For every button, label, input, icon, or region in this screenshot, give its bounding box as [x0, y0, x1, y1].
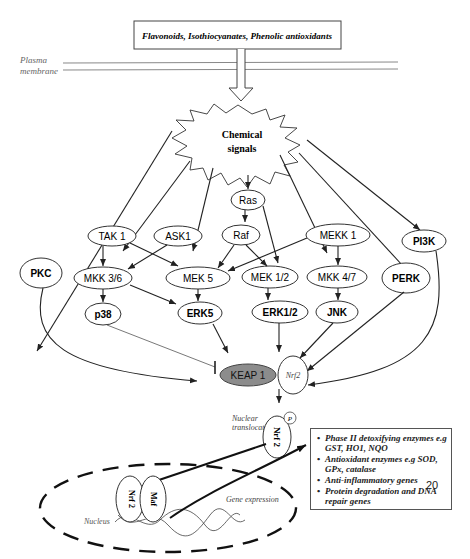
node-nrf2-cytoplasm: Nrf2 [278, 356, 308, 394]
chemical-signals-starburst: Chemical signals [172, 104, 300, 187]
nrf2-signaling-diagram: Flavonoids, Isothiocyanates, Phenolic an… [0, 0, 470, 559]
node-ask1: ASK1 [154, 226, 202, 246]
svg-text:MEK 5: MEK 5 [183, 273, 213, 284]
input-compounds-box: Flavonoids, Isothiocyanates, Phenolic an… [134, 21, 341, 49]
svg-text:Nrf 2: Nrf 2 [272, 427, 282, 448]
gene-expression-label: Gene expression [226, 495, 279, 504]
svg-text:MEKK 1: MEKK 1 [320, 230, 357, 241]
svg-text:MEK 1/2: MEK 1/2 [251, 272, 290, 283]
svg-text:PKC: PKC [30, 268, 51, 279]
svg-text:Nrf 2: Nrf 2 [127, 490, 136, 508]
svg-text:TAK 1: TAK 1 [98, 231, 125, 242]
node-mek12: MEK 1/2 [242, 266, 298, 288]
svg-text:JNK: JNK [327, 307, 348, 318]
svg-text:p38: p38 [94, 309, 112, 320]
svg-text:PERK: PERK [392, 273, 421, 284]
node-jnk: JNK [316, 301, 358, 323]
membrane-label-1: Plasma [19, 55, 48, 65]
svg-text:Raf: Raf [233, 230, 249, 241]
node-pi3k: PI3K [402, 230, 446, 252]
gene-item-phase2: Phase II detoxifying enzymes e.g GST, HO… [317, 433, 447, 453]
node-pkc: PKC [20, 258, 62, 288]
phosphate-badge: P [284, 412, 296, 424]
node-p38: p38 [85, 303, 121, 325]
plasma-membrane: Plasma membrane [19, 55, 398, 76]
node-mkk47: MKK 4/7 [307, 266, 367, 288]
node-erk5: ERK5 [178, 302, 222, 324]
svg-text:Nrf2: Nrf2 [285, 371, 301, 380]
svg-text:P: P [287, 415, 293, 423]
svg-text:ERK1/2: ERK1/2 [262, 307, 297, 318]
svg-text:KEAP 1: KEAP 1 [231, 370, 266, 381]
nucleus-label: Nucleus [83, 517, 110, 526]
node-mkk36: MKK 3/6 [74, 267, 132, 289]
svg-text:MKK 4/7: MKK 4/7 [318, 272, 357, 283]
node-maf: Maf [140, 476, 166, 522]
svg-text:MKK 3/6: MKK 3/6 [84, 273, 123, 284]
node-perk: PERK [382, 263, 430, 293]
svg-text:Ras: Ras [239, 195, 257, 206]
node-keap1: KEAP 1 [220, 364, 276, 386]
svg-text:Maf: Maf [149, 492, 158, 507]
node-tak1: TAK 1 [88, 226, 136, 246]
node-raf: Raf [222, 225, 260, 245]
gene-item-antioxidant: Antioxidant enzymes e.g SOD, GPx, catala… [317, 454, 447, 474]
input-compounds-label: Flavonoids, Isothiocyanates, Phenolic an… [141, 31, 332, 41]
nuclear-translocation-label-1: Nuclear [231, 414, 259, 423]
svg-text:ERK5: ERK5 [187, 308, 214, 319]
signal-label-2: signals [228, 143, 257, 154]
node-ras: Ras [231, 190, 265, 210]
node-erk12: ERK1/2 [252, 301, 308, 323]
hollow-arrow-down-icon [229, 49, 253, 101]
svg-text:PI3K: PI3K [413, 236, 436, 247]
membrane-label-2: membrane [20, 66, 58, 76]
target-genes-box: Phase II detoxifying enzymes e.g GST, HO… [310, 428, 452, 510]
node-mekk1: MEKK 1 [306, 224, 370, 246]
page-number: 20 [426, 479, 438, 491]
svg-text:ASK1: ASK1 [165, 231, 191, 242]
signal-label-1: Chemical [222, 129, 263, 140]
node-mek5: MEK 5 [166, 267, 230, 289]
